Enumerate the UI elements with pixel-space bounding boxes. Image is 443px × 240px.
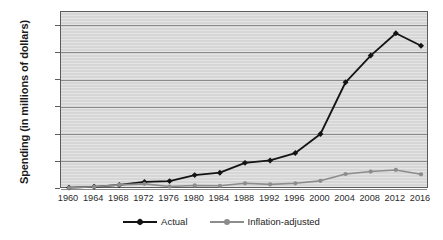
- data-point: [243, 181, 247, 185]
- y-tick-mark: [55, 106, 60, 107]
- legend-label: Inflation-adjusted: [248, 216, 320, 227]
- data-point: [117, 183, 121, 187]
- data-point: [293, 181, 297, 185]
- plot-area: [60, 11, 428, 188]
- legend-label: Actual: [161, 216, 187, 227]
- data-point: [267, 157, 273, 163]
- data-point: [242, 160, 248, 166]
- legend-swatch-icon: [123, 217, 157, 227]
- legend-swatch-icon: [210, 217, 244, 227]
- data-point: [418, 43, 424, 49]
- data-point: [343, 172, 347, 176]
- y-tick-mark: [55, 188, 60, 189]
- y-tick-mark: [55, 79, 60, 80]
- x-tick-label: 2016: [400, 193, 440, 203]
- data-point: [318, 179, 322, 183]
- y-tick-mark: [55, 25, 60, 26]
- y-axis-title: Spending (in millions of dollars): [18, 12, 30, 192]
- line-chart: Spending (in millions of dollars) 050010…: [0, 0, 443, 240]
- y-tick-mark: [55, 161, 60, 162]
- data-point: [394, 168, 398, 172]
- data-point: [218, 184, 222, 188]
- data-point: [67, 186, 71, 190]
- y-tick-mark: [55, 134, 60, 135]
- data-point: [268, 182, 272, 186]
- data-point: [92, 185, 96, 189]
- data-point: [167, 184, 171, 188]
- y-tick-mark: [55, 52, 60, 53]
- legend-item-inflation-adjusted[interactable]: Inflation-adjusted: [210, 216, 320, 227]
- data-point: [193, 183, 197, 187]
- data-point: [192, 172, 198, 178]
- data-point: [142, 182, 146, 186]
- data-point: [419, 172, 423, 176]
- chart-legend: ActualInflation-adjusted: [0, 216, 443, 227]
- data-point: [167, 178, 173, 184]
- series-layer: [61, 12, 429, 189]
- data-point: [217, 170, 223, 176]
- legend-item-actual[interactable]: Actual: [123, 216, 187, 227]
- data-point: [369, 169, 373, 173]
